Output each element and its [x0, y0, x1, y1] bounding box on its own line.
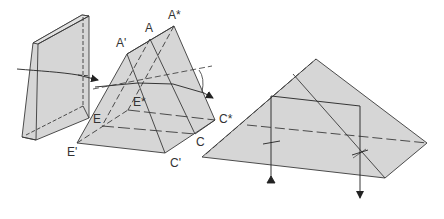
label-e-prime: E' — [67, 146, 77, 158]
right-angle-prism — [202, 59, 427, 178]
label-c-star: C* — [219, 113, 232, 125]
label-c-prime: C' — [170, 157, 181, 169]
middle-prism — [77, 26, 215, 153]
prism-diagram: A' A A* E* E E' C' C C* — [0, 0, 444, 219]
label-a-star: A* — [168, 9, 181, 21]
label-a-prime: A' — [116, 37, 126, 49]
label-c: C — [196, 136, 205, 148]
label-e: E — [93, 113, 101, 125]
wedge-plate — [22, 15, 89, 140]
label-a: A — [145, 22, 153, 34]
diagram-canvas — [0, 0, 444, 219]
label-e-star: E* — [133, 96, 146, 108]
